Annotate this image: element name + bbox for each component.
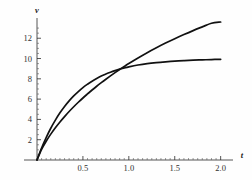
data-curves-group: [37, 22, 221, 160]
x-axis-ticks: [42, 156, 221, 160]
x-tick-label: 1.0: [124, 163, 135, 173]
x-axis-tick-labels: 0.51.01.52.0: [78, 163, 226, 173]
y-tick-label: 4: [28, 114, 33, 124]
x-axis-label: t: [241, 150, 244, 160]
plot-container: 0.51.01.52.0 24681012 v t: [0, 0, 252, 180]
x-tick-label: 1.5: [169, 163, 180, 173]
x-tick-label: 2.0: [215, 163, 226, 173]
axes-group: [24, 18, 233, 160]
y-tick-label: 12: [24, 33, 33, 43]
y-tick-label: 6: [28, 94, 32, 104]
y-axis-label: v: [35, 5, 39, 15]
y-tick-label: 8: [28, 74, 32, 84]
chart-canvas: 0.51.01.52.0 24681012 v t: [0, 0, 252, 180]
y-axis-ticks: [37, 28, 41, 155]
y-axis-tick-labels: 24681012: [24, 33, 33, 144]
x-tick-label: 0.5: [78, 163, 89, 173]
y-tick-label: 10: [24, 54, 33, 64]
curve-lower-curve: [37, 59, 221, 160]
curve-upper-curve: [37, 22, 221, 160]
y-tick-label: 2: [28, 135, 32, 145]
